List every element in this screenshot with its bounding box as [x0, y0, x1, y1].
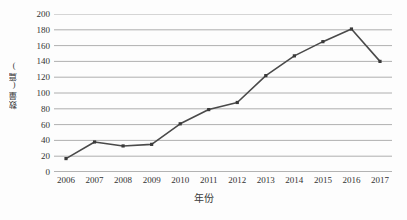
data-point-marker [150, 143, 153, 146]
data-point-marker [264, 74, 267, 77]
y-axis-tick-label: 100 [24, 89, 50, 98]
y-axis-tick-label: 60 [24, 120, 50, 129]
data-point-marker [378, 60, 381, 63]
data-point-marker [293, 54, 296, 57]
y-axis-tick-label: 140 [24, 57, 50, 66]
x-axis-title: 年份 [0, 193, 407, 205]
chart-svg [54, 14, 392, 172]
x-axis-tick-label: 2015 [314, 175, 332, 186]
x-axis-tick-label: 2011 [200, 175, 218, 186]
x-axis-tick-label: 2007 [86, 175, 104, 186]
data-point-marker [121, 144, 124, 147]
x-axis-tick-label: 2009 [143, 175, 161, 186]
data-point-marker [179, 122, 182, 125]
y-axis-tick-label: 80 [24, 104, 50, 113]
y-axis-tick-label: 40 [24, 136, 50, 145]
x-axis-tick-label: 2006 [57, 175, 75, 186]
y-axis-tick-label: 20 [24, 152, 50, 161]
data-point-marker [207, 108, 210, 111]
data-point-marker [321, 40, 324, 43]
plot-area [54, 14, 392, 172]
y-axis-tick-label: 200 [24, 10, 50, 19]
y-axis-tick-label: 0 [24, 168, 50, 177]
data-point-marker [93, 140, 96, 143]
x-axis-tick-label: 2016 [342, 175, 360, 186]
y-axis-title: 数量(篇) [10, 62, 24, 109]
gridlines [54, 14, 392, 172]
x-axis-tick-label: 2010 [171, 175, 189, 186]
y-axis-tick-labels: 020406080100120140160180200 [24, 14, 50, 172]
x-axis-tick-label: 2013 [257, 175, 275, 186]
y-axis-tick-label: 180 [24, 25, 50, 34]
series-line [66, 29, 380, 159]
x-axis-tick-label: 2008 [114, 175, 132, 186]
x-axis-tick-labels: 2006200720082009201020112012201320142015… [54, 175, 392, 189]
x-axis-tick-label: 2014 [285, 175, 303, 186]
x-axis-tick-label: 2012 [228, 175, 246, 186]
line-chart-figure: 数量(篇) 020406080100120140160180200 200620… [0, 0, 407, 220]
data-point-marker [236, 101, 239, 104]
y-axis-tick-label: 160 [24, 41, 50, 50]
y-axis-tick-label: 120 [24, 73, 50, 82]
data-point-marker [350, 27, 353, 30]
data-point-marker [64, 157, 67, 160]
x-axis-tick-label: 2017 [371, 175, 389, 186]
